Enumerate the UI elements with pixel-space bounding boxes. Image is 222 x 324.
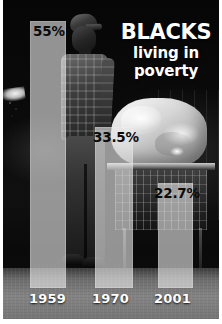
frame-margin-right <box>219 0 222 324</box>
frame-margin-left <box>0 0 3 324</box>
year-label-2001: 2001 <box>154 291 191 306</box>
bar-1959 <box>30 21 66 288</box>
bundle-specular <box>170 147 184 156</box>
headline-block: BLACKS living in poverty <box>115 22 217 81</box>
photo-plate: 55% 33.5% 22.7% 1959 1970 2001 BLACKS li… <box>3 0 219 319</box>
poverty-infographic: 55% 33.5% 22.7% 1959 1970 2001 BLACKS li… <box>0 0 222 324</box>
bar-1970 <box>95 127 133 288</box>
headline-main: BLACKS <box>115 22 217 43</box>
bar-value-1959: 55% <box>33 23 65 39</box>
bar-value-1970: 33.5% <box>93 129 139 145</box>
bar-value-2001: 22.7% <box>154 185 200 201</box>
frame-margin-bottom <box>0 319 222 324</box>
headline-line2: living in <box>115 45 217 63</box>
left-specks <box>7 100 25 122</box>
year-label-1970: 1970 <box>92 291 129 306</box>
leg-separation <box>84 164 87 260</box>
headline-line3: poverty <box>115 63 217 81</box>
year-label-1959: 1959 <box>29 291 66 306</box>
